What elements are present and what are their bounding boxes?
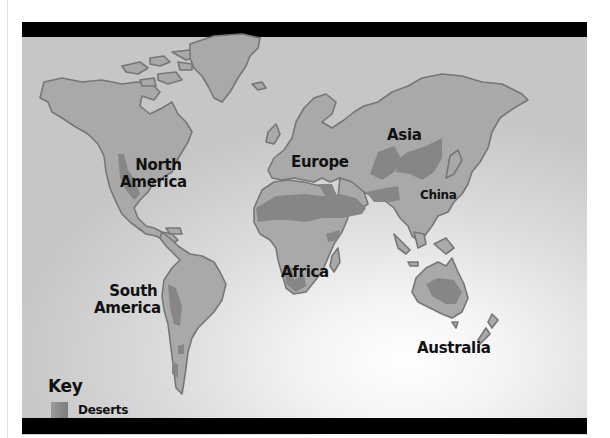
page-edge-line bbox=[7, 0, 8, 438]
key-title: Key bbox=[48, 378, 83, 395]
desert-swatch-icon bbox=[51, 402, 68, 418]
label-asia: Asia bbox=[387, 128, 422, 143]
landmass-south-america bbox=[160, 232, 226, 394]
landmass-greenland bbox=[190, 34, 260, 102]
label-china: China bbox=[420, 189, 457, 201]
label-north-line2: America bbox=[120, 175, 187, 190]
label-south-line2: America bbox=[94, 301, 161, 316]
key-label-deserts: Deserts bbox=[78, 404, 128, 416]
label-south-america: South America bbox=[106, 284, 161, 316]
world-map-panel: North America Europe Asia China Africa S… bbox=[22, 22, 587, 435]
label-south-line1: South bbox=[106, 284, 161, 299]
label-australia: Australia bbox=[417, 341, 491, 356]
label-africa: Africa bbox=[281, 265, 329, 280]
desert-sahara bbox=[256, 194, 366, 222]
label-north-line1: North bbox=[130, 158, 187, 173]
bottom-black-bar bbox=[22, 418, 587, 434]
label-north-america: North America bbox=[130, 158, 187, 190]
label-europe: Europe bbox=[291, 155, 349, 170]
world-map bbox=[22, 22, 587, 435]
